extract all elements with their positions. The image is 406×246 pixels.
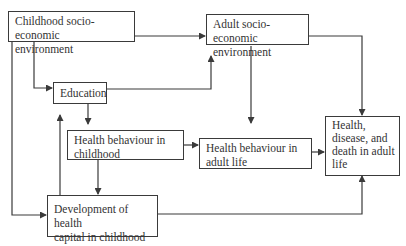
node-health-capital: Development of health capital in childho… <box>47 195 158 237</box>
node-adult-ses: Adult socio-economic environment <box>206 14 309 45</box>
node-label-line: childhood <box>74 147 179 161</box>
edge-health-capital-to-health <box>158 176 362 214</box>
node-label-line: environment <box>15 42 130 56</box>
node-label-line: Adult socio-economic <box>213 17 304 45</box>
node-hb-adult: Health behaviour in adult life <box>199 138 312 169</box>
node-label-line: disease, and <box>332 132 395 145</box>
node-education: Education <box>53 82 107 104</box>
node-hb-childhood: Health behaviour in childhood <box>67 130 184 160</box>
edge-childhood-to-health-capital <box>12 42 46 215</box>
edge-adult-to-health <box>309 36 362 115</box>
node-label-line: life <box>332 158 395 171</box>
node-label-line: Childhood socio-economic <box>15 14 130 42</box>
edge-education-to-adult <box>107 56 211 89</box>
node-label-line: Health behaviour in <box>206 141 307 155</box>
node-label-line: death in adult <box>332 145 395 158</box>
node-label-line: Health, <box>332 119 395 132</box>
node-label-line: environment <box>213 45 304 59</box>
node-label-line: capital in childhood <box>54 230 153 244</box>
diagram-canvas: Childhood socio-economic environment Adu… <box>0 0 406 246</box>
node-label-line: Development of health <box>54 202 153 230</box>
node-health-outcome: Health, disease, and death in adult life <box>325 116 400 176</box>
node-childhood-ses: Childhood socio-economic environment <box>8 11 135 42</box>
node-label-line: Health behaviour in <box>74 133 179 147</box>
node-label-line: Education <box>60 86 102 100</box>
node-label-line: adult life <box>206 155 307 169</box>
